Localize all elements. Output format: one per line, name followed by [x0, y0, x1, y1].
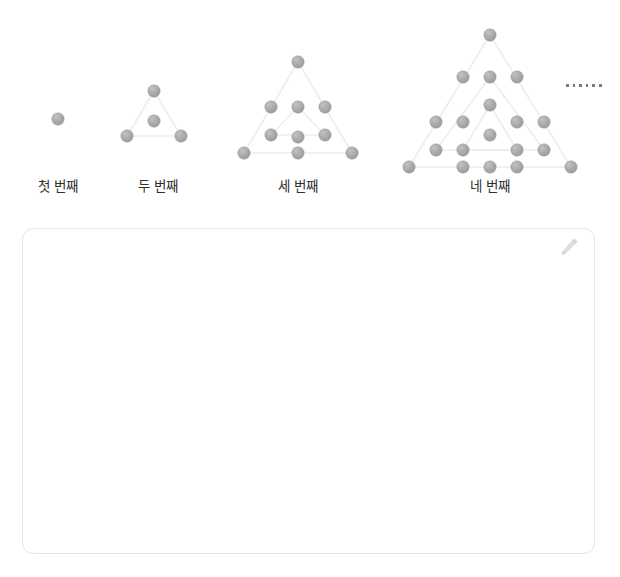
- figure-label-first: 첫 번째: [38, 175, 79, 195]
- figure-3-dot-3: [265, 101, 277, 113]
- figure-4-line: [490, 105, 517, 150]
- figure-3-dot-6: [265, 129, 277, 141]
- figure-2-dot-4: [175, 130, 187, 142]
- figure-3-dot-2: [292, 101, 304, 113]
- figure-3-dot-8: [238, 147, 250, 159]
- figure-dots: [52, 29, 577, 173]
- worksheet-canvas: 첫 번째 두 번째 세 번째 네 번째: [0, 0, 620, 577]
- figure-label-fourth: 네 번째: [470, 175, 511, 195]
- figure-3-dot-1: [292, 56, 304, 68]
- figure-4-line: [490, 35, 571, 167]
- ellipsis-dot: [566, 84, 569, 87]
- figure-2-line: [127, 91, 154, 136]
- figure-3-dot-7: [319, 129, 331, 141]
- figure-2-line: [154, 91, 181, 136]
- figure-4-dot-19: [484, 161, 496, 173]
- ellipsis-dot: [579, 84, 582, 87]
- figure-2-dot-3: [121, 130, 133, 142]
- figure-2-dot-2: [148, 115, 160, 127]
- figure-2-dot-1: [148, 85, 160, 97]
- figure-4-dot-7: [457, 116, 469, 128]
- ellipsis-dot: [586, 84, 589, 87]
- figure-3-dot-10: [346, 147, 358, 159]
- figure-1-dot-1: [52, 113, 64, 125]
- pencil-icon[interactable]: [556, 235, 582, 261]
- figure-4-dot-5: [484, 99, 496, 111]
- dot-pattern-figures: [0, 0, 620, 180]
- figure-4-dot-6: [430, 116, 442, 128]
- ellipsis-dot: [573, 84, 576, 87]
- ellipsis-dot: [592, 84, 595, 87]
- figure-4-dot-12: [511, 144, 523, 156]
- figure-3-dot-4: [319, 101, 331, 113]
- figure-4-dot-8: [511, 116, 523, 128]
- figure-4-dot-14: [538, 144, 550, 156]
- figure-4-dot-2: [484, 71, 496, 83]
- figure-4-dot-16: [457, 161, 469, 173]
- figure-4-dot-1: [484, 29, 496, 41]
- figure-4-dot-18: [565, 161, 577, 173]
- figure-3-dot-5: [292, 131, 304, 143]
- figure-4-line: [436, 77, 490, 150]
- continuation-ellipsis: [566, 84, 602, 87]
- ellipsis-dot: [599, 84, 602, 87]
- figure-4-dot-15: [403, 161, 415, 173]
- figure-4-dot-13: [430, 144, 442, 156]
- figure-4-dot-3: [457, 71, 469, 83]
- answer-input-box[interactable]: [22, 228, 595, 554]
- figure-3-dot-9: [292, 147, 304, 159]
- figure-4-dot-4: [511, 71, 523, 83]
- figure-4-dot-9: [538, 116, 550, 128]
- figure-4-dot-11: [457, 144, 469, 156]
- figure-label-second: 두 번째: [138, 175, 179, 195]
- figure-label-third: 세 번째: [278, 175, 319, 195]
- figure-4-line: [463, 105, 490, 150]
- figure-4-line: [490, 77, 544, 150]
- figure-4-dot-17: [511, 161, 523, 173]
- figure-4-line: [409, 35, 490, 167]
- figure-connector-lines: [127, 35, 571, 167]
- figure-4-dot-10: [484, 129, 496, 141]
